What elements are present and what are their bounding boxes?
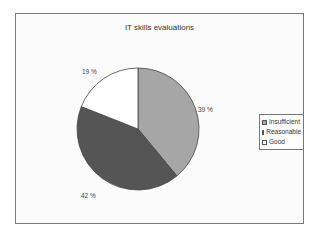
legend-item-insufficient: Insufficient: [262, 117, 301, 127]
swatch-insufficient: [262, 120, 267, 125]
label-reasonable: 42 %: [81, 192, 96, 199]
legend-label: Good: [269, 137, 285, 147]
swatch-reasonable: [262, 130, 264, 135]
legend: Insufficient Reasonable Good: [259, 114, 304, 150]
legend-label: Insufficient: [269, 117, 300, 127]
label-insufficient: 39 %: [198, 106, 213, 113]
legend-item-reasonable: Reasonable: [262, 127, 301, 137]
chart-frame: IT skills evaluations 19 % 39 % 42 % Ins…: [15, 13, 304, 224]
swatch-good: [262, 140, 267, 145]
legend-item-good: Good: [262, 137, 301, 147]
label-good: 19 %: [82, 68, 97, 75]
legend-label: Reasonable: [266, 127, 301, 137]
